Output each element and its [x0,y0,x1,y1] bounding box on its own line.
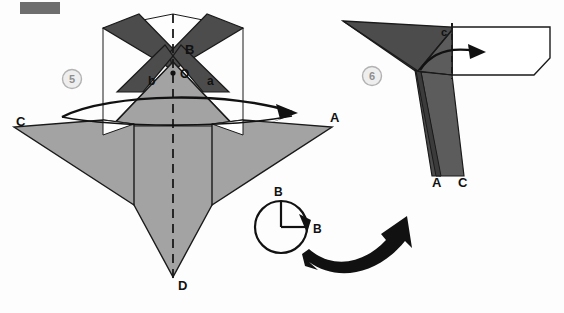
rotation-label-right: B [313,222,322,236]
step5-label-C: C [16,114,26,129]
crop-mark-bar [20,2,60,14]
diagram-canvas: 5 B O b a C A D B B [0,0,564,313]
rotate-90-symbol: B B [255,185,322,253]
step6-label-A: A [432,175,442,190]
step6-label-c: c [441,26,447,38]
step5-label-A: A [330,110,340,125]
right-wing-panel [212,120,332,205]
point-O-dot [170,70,175,75]
step-badge-5-number: 5 [69,73,75,85]
step-badge-5: 5 [63,70,82,89]
origami-diagram-svg: 5 B O b a C A D B B [0,0,564,313]
step-6-figure: 6 c A C [343,21,550,190]
step5-label-B: B [185,42,194,57]
step-badge-6-number: 6 [369,70,375,82]
step5-label-O: O [180,67,189,81]
step6-label-C: C [458,175,468,190]
step5-label-b: b [148,74,155,88]
rotation-label-top: B [274,185,283,199]
left-wing-panel [14,120,134,205]
step5-label-a: a [207,74,214,88]
step-badge-6: 6 [363,67,382,86]
step5-label-D: D [178,278,187,293]
